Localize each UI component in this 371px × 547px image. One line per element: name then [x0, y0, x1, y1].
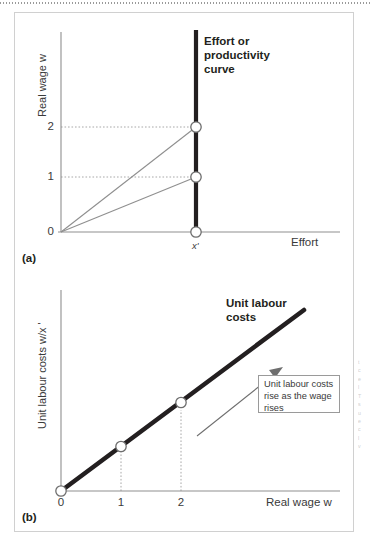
point-xprime-1	[191, 172, 201, 182]
panel-b-xtick-0: 0	[51, 496, 71, 508]
panel-b-x-axis-title: Real wage w	[266, 496, 332, 508]
unit-labour-costs-label: Unit labour costs	[226, 296, 287, 324]
panel-b-letter: (b)	[22, 511, 37, 523]
ray-to-wage-1	[61, 177, 196, 232]
point-w-0	[56, 486, 66, 496]
panel-a-y-axis-title: Real wage w	[36, 54, 48, 117]
point-xprime-2	[191, 122, 201, 132]
panel-a-ytick-0: 0	[28, 225, 54, 237]
panel-b: Unit labour costs w/x ' 0 1 2 Real wage …	[14, 274, 354, 532]
panel-a: Real wage w 2 1 0 x' Effort Effort or pr…	[14, 12, 354, 274]
figure-root: Real wage w 2 1 0 x' Effort Effort or pr…	[0, 0, 371, 547]
panel-a-xtick-xprime: x'	[192, 240, 199, 251]
point-xprime-0	[191, 227, 201, 237]
panel-a-ytick-2: 2	[28, 120, 54, 132]
panel-b-xtick-2: 2	[171, 496, 191, 508]
panel-b-y-axis-title: Unit labour costs w/x '	[36, 322, 48, 429]
effort-productivity-curve-label: Effort or productivity curve	[204, 34, 270, 76]
point-w-2	[176, 397, 186, 407]
panel-a-plot	[14, 12, 354, 274]
panel-a-x-axis-title: Effort	[291, 236, 318, 248]
ray-to-wage-2	[61, 127, 196, 232]
point-w-1	[116, 441, 126, 451]
panel-a-ytick-1: 1	[28, 170, 54, 182]
page-top-dotted-rule	[0, 2, 371, 4]
panel-a-letter: (a)	[22, 252, 36, 264]
page-edge-sliver-text: t c e l T s u e c l v	[358, 358, 370, 451]
panel-b-xtick-1: 1	[111, 496, 131, 508]
unit-labour-costs-note: Unit labour costs rise as the wage rises	[258, 375, 340, 413]
